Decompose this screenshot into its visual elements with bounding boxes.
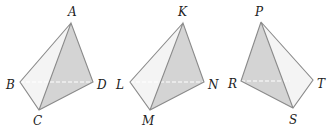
- tetrahedron-prst: P R S T: [227, 5, 326, 127]
- label-n: N: [207, 78, 219, 92]
- label-a: A: [67, 5, 77, 19]
- tetrahedron-abcd: A B C D: [5, 5, 107, 128]
- tetrahedron-klmn: K L M N: [115, 5, 219, 128]
- label-t: T: [317, 77, 326, 91]
- label-m: M: [141, 114, 155, 128]
- label-r: R: [227, 77, 237, 91]
- label-c: C: [33, 114, 42, 128]
- tetrahedra-figure: A B C D K L M N P R S T: [0, 0, 335, 129]
- label-d: D: [96, 78, 107, 92]
- label-b: B: [5, 78, 15, 92]
- label-s: S: [289, 113, 297, 127]
- label-l: L: [115, 78, 124, 92]
- label-p: P: [254, 5, 264, 19]
- label-k: K: [177, 5, 188, 19]
